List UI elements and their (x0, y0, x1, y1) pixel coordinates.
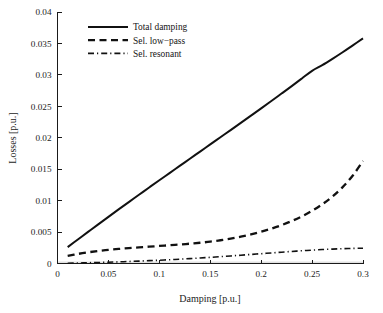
legend-label-2: Sel. low−pass (133, 36, 186, 46)
data-series-group (68, 38, 363, 263)
y-tick-label: 0.015 (31, 164, 52, 174)
y-tick-label: 0.005 (31, 227, 52, 237)
y-tick-label: 0.03 (35, 70, 51, 80)
legend-label-3: Sel. resonant (133, 49, 182, 59)
x-tick-label: 0 (55, 269, 60, 279)
x-tick-label: 0.2 (255, 269, 267, 279)
x-tick-label: 0.25 (304, 269, 320, 279)
y-tick-label: 0.04 (35, 7, 51, 17)
series-line-1 (68, 38, 363, 247)
y-axis-tick-labels: 00.0050.010.0150.020.0250.030.0350.04 (31, 7, 52, 269)
series-line-2 (68, 161, 363, 256)
x-tick-label: 0.05 (100, 269, 116, 279)
y-tick-label: 0.01 (35, 196, 51, 206)
x-tick-label: 0.15 (202, 269, 218, 279)
y-tick-label: 0.02 (35, 133, 51, 143)
y-tick-label: 0.025 (31, 102, 52, 112)
x-axis-title: Damping [p.u.] (179, 293, 240, 304)
y-tick-label: 0 (47, 259, 52, 269)
chart-canvas: 00.0050.010.0150.020.0250.030.0350.04 00… (0, 0, 383, 313)
x-tick-label: 0.1 (154, 269, 166, 279)
figure-container: 00.0050.010.0150.020.0250.030.0350.04 00… (0, 0, 383, 313)
legend: Total dampingSel. low−passSel. resonant (88, 22, 188, 58)
series-line-3 (68, 248, 363, 263)
y-tick-label: 0.035 (31, 39, 52, 49)
y-axis-title: Losses [p.u.] (7, 112, 18, 163)
x-axis-tick-labels: 00.050.10.150.20.250.3 (55, 269, 369, 279)
y-axis-ticks (58, 12, 62, 264)
x-tick-label: 0.3 (357, 269, 369, 279)
legend-label-1: Total damping (133, 22, 188, 32)
